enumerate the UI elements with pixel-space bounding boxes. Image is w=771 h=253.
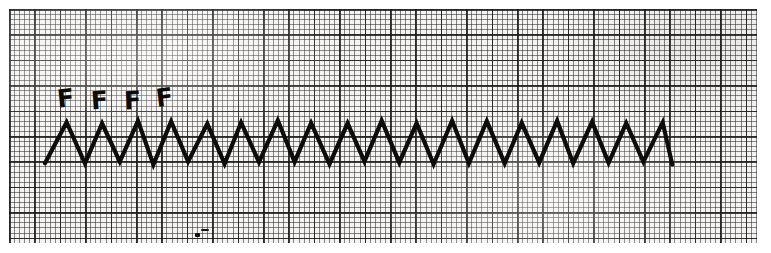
ecg-graph-paper	[9, 9, 757, 243]
ecg-rhythm-strip-figure: FFFF	[0, 0, 771, 253]
paper-grain-overlay	[9, 9, 757, 243]
